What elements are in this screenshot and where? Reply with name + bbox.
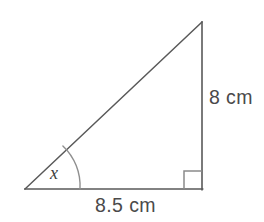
angle-label-x: x — [50, 164, 58, 182]
right-angle-marker-icon — [184, 171, 202, 189]
triangle-diagram-svg — [0, 0, 264, 222]
geometry-figure-canvas: x 8 cm 8.5 cm — [0, 0, 264, 222]
horizontal-side-length-label: 8.5 cm — [68, 196, 183, 216]
vertical-side-length-label: 8 cm — [209, 88, 253, 108]
angle-arc-icon — [63, 146, 80, 189]
